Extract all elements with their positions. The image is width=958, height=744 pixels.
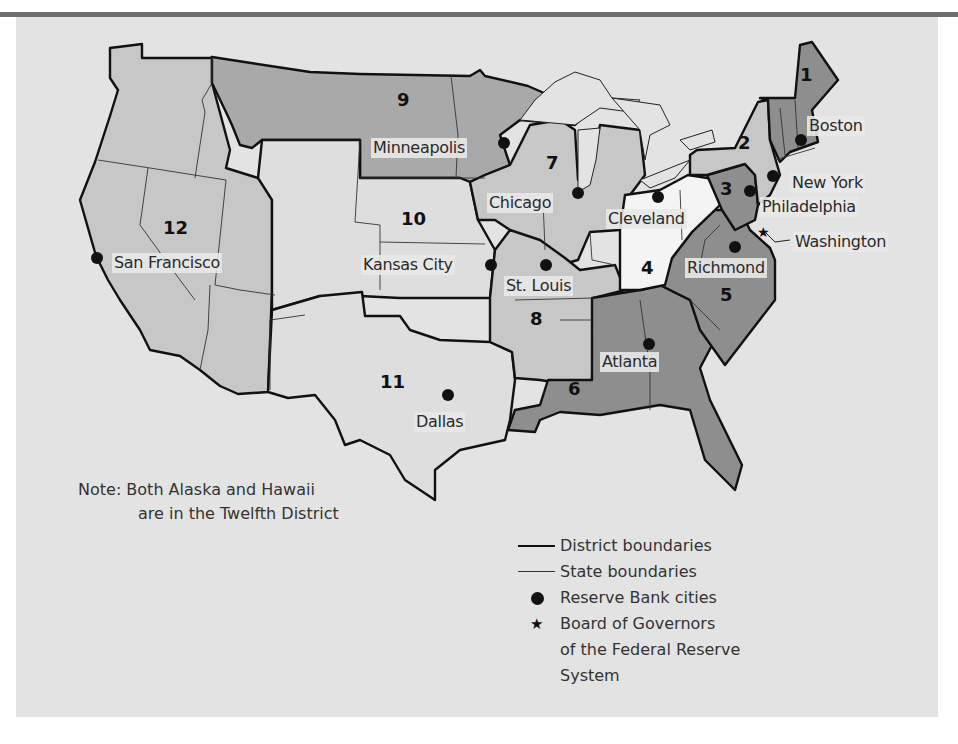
state-line [590, 232, 615, 265]
city-dot-dallas [442, 389, 454, 401]
district-number-5: 5 [720, 284, 733, 305]
city-label-minneapolis: Minneapolis [371, 138, 467, 158]
legend-item-board-of-governors: ★ Board of Governors of the Federal Rese… [508, 611, 740, 689]
district-number-4: 4 [641, 257, 654, 278]
city-label-washington: Washington [793, 232, 888, 252]
city-label-philadelphia: Philadelphia [760, 197, 858, 217]
city-label-boston: Boston [807, 116, 865, 136]
district-number-9: 9 [397, 89, 410, 110]
legend-label: District boundaries [560, 533, 712, 559]
district-number-8: 8 [530, 308, 543, 329]
legend-label: Board of Governors of the Federal Reserv… [560, 611, 740, 689]
legend-item-reserve-bank-cities: Reserve Bank cities [508, 585, 740, 611]
city-label-st-louis: St. Louis [504, 276, 573, 296]
city-dot-richmond [729, 241, 741, 253]
star-icon: ★ [508, 611, 560, 637]
map-note: Note: Both Alaska and Hawaii are in the … [78, 478, 339, 526]
district-number-6: 6 [568, 378, 581, 399]
map-legend: District boundaries State boundaries Res… [508, 533, 740, 689]
note-line-2: are in the Twelfth District [78, 502, 339, 526]
city-dot-san-francisco [91, 252, 103, 264]
city-dot-philadelphia [744, 185, 756, 197]
district-number-12: 12 [163, 217, 188, 238]
city-dot-cleveland [652, 191, 664, 203]
city-dot-new-york [767, 170, 779, 182]
us-map: ★ [0, 0, 958, 744]
thin-line-icon [508, 559, 560, 585]
lake-superior [520, 72, 640, 125]
city-label-chicago: Chicago [487, 193, 553, 213]
legend-label: State boundaries [560, 559, 697, 585]
city-dot-boston [795, 134, 807, 146]
city-label-san-francisco: San Francisco [112, 253, 222, 273]
city-label-new-york: New York [790, 173, 865, 193]
dot-icon [508, 585, 560, 611]
city-dot-chicago [572, 187, 584, 199]
city-label-kansas-city: Kansas City [361, 255, 455, 275]
city-label-atlanta: Atlanta [600, 352, 659, 372]
board-star-icon: ★ [757, 224, 770, 240]
city-label-dallas: Dallas [414, 412, 465, 432]
legend-item-district-boundaries: District boundaries [508, 533, 740, 559]
legend-label: Reserve Bank cities [560, 585, 717, 611]
district-number-11: 11 [380, 371, 405, 392]
district-number-1: 1 [800, 64, 813, 85]
city-dot-minneapolis [498, 137, 510, 149]
city-label-richmond: Richmond [685, 258, 767, 278]
legend-item-state-boundaries: State boundaries [508, 559, 740, 585]
thick-line-icon [508, 533, 560, 559]
note-line-1: Note: Both Alaska and Hawaii [78, 478, 339, 502]
city-label-cleveland: Cleveland [606, 209, 687, 229]
district-number-3: 3 [720, 178, 733, 199]
city-dot-kansas-city [485, 259, 497, 271]
district-11-region [268, 292, 515, 500]
city-dot-st-louis [540, 259, 552, 271]
district-number-10: 10 [401, 208, 426, 229]
city-dot-atlanta [643, 338, 655, 350]
lake-ontario [680, 130, 715, 150]
district-number-7: 7 [546, 152, 559, 173]
district-number-2: 2 [738, 132, 751, 153]
